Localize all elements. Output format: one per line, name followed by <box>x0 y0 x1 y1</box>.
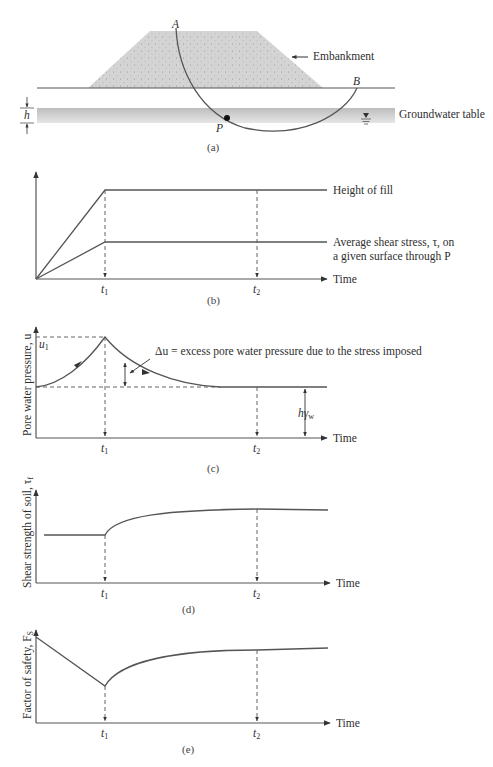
caption-d: (d) <box>182 603 195 615</box>
t1-label: t1 <box>101 727 108 743</box>
factor-of-safety-curve <box>36 637 328 686</box>
point-b-label: B <box>353 75 360 88</box>
delta-u-label: Δu = excess pore water pressure due to t… <box>155 345 422 358</box>
height-of-fill-line <box>36 190 327 279</box>
t2-label: t2 <box>253 442 260 458</box>
caption-c: (c) <box>207 462 219 474</box>
shear-stress-label-line2: a given surface through P <box>333 250 451 263</box>
shear-strength-curve <box>44 509 328 535</box>
height-of-fill-label: Height of fill <box>333 184 393 197</box>
point-p-marker <box>224 115 230 121</box>
y-axis-label-shear-strength: Shear strength of soil, τf <box>21 477 35 588</box>
t1-label: t1 <box>101 442 108 458</box>
panel-a-cross-section <box>20 28 395 134</box>
groundwater-band <box>37 108 395 123</box>
x-axis-label-time: Time <box>333 273 357 286</box>
panel-d-chart <box>36 490 330 583</box>
t2-label: t2 <box>253 727 260 743</box>
t1-label: t1 <box>101 283 108 299</box>
caption-a: (a) <box>207 141 219 153</box>
y-axis-label-pore-pressure: Pore water pressure, u <box>21 334 33 436</box>
point-a-label: A <box>172 18 179 31</box>
panel-e-chart <box>36 630 330 723</box>
x-axis-label-time: Time <box>333 432 357 445</box>
t2-label: t2 <box>253 283 260 299</box>
t2-label: t2 <box>253 587 260 603</box>
embankment-label: Embankment <box>313 50 374 63</box>
t1-label: t1 <box>101 587 108 603</box>
shear-stress-line <box>36 242 327 279</box>
embankment-shape <box>88 31 323 88</box>
caption-e: (e) <box>182 743 194 755</box>
caption-b: (b) <box>207 294 220 306</box>
y-axis-label-factor-of-safety: Factor of safety, FS <box>21 631 35 719</box>
u1-label: u1 <box>39 338 49 354</box>
h-label: h <box>24 109 30 122</box>
h-gamma-w-label: hγw <box>298 407 314 423</box>
x-axis-label-time: Time <box>336 717 360 730</box>
point-p-label: P <box>216 122 223 135</box>
shear-stress-label-line1: Average shear stress, τ, on <box>333 236 454 249</box>
x-axis-label-time: Time <box>336 577 360 590</box>
panel-c-chart <box>36 327 327 438</box>
groundwater-table-label: Groundwater table <box>399 108 485 121</box>
panel-b-chart <box>36 172 327 279</box>
